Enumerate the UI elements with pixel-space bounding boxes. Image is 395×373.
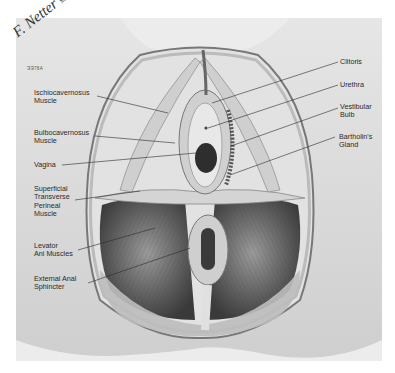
label-vagina: Vagina [34, 161, 56, 169]
label-superficial-transverse-perineal-muscle: Superficial Transverse Perineal Muscle [34, 185, 70, 219]
label-urethra: Urethra [340, 81, 364, 89]
urethral-opening [204, 126, 207, 129]
label-external-anal-sphincter: External Anal Sphincter [34, 275, 76, 292]
label-vestibular-bulb: Vestibular Bulb [340, 103, 372, 120]
label-ischiocavernosus-muscle: Ischiocavernosus Muscle [34, 89, 90, 106]
vaginal-opening [195, 143, 217, 173]
anococcygeal-body [205, 285, 208, 330]
label-bulbocavernosus-muscle: Bulbocavernosus Muscle [34, 129, 89, 146]
plate-code: ЭЭ78А [27, 66, 43, 71]
label-clitoris: Clitoris [340, 58, 362, 66]
label-levator-ani-muscles: Levator Ani Muscles [34, 242, 73, 259]
anal-opening [201, 228, 215, 270]
label-bartholins-gland: Bartholin's Gland [339, 133, 372, 150]
